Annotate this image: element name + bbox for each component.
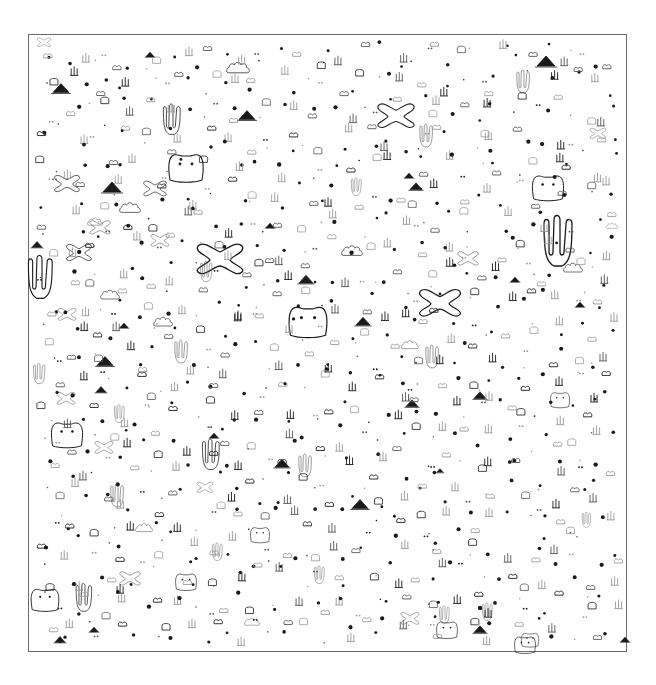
mountain-icon [436,469,445,473]
dot-glyph-icon [453,431,457,435]
tiny-glyph-icon [44,591,46,593]
dot-glyph-icon [192,363,196,367]
pair-glyph-icon [462,257,467,259]
bump-glyph-icon [76,183,84,187]
face-s-glyph-icon [412,423,420,430]
bump-glyph-icon [164,334,172,338]
face-s-glyph-icon [520,584,528,591]
tiny-glyph-icon [423,222,425,224]
tiny-glyph-icon [249,200,251,202]
dot-glyph-icon [335,164,338,167]
bump-glyph-icon [220,608,228,612]
tiny-glyph-icon [477,624,479,626]
tiny-glyph-icon [357,356,359,358]
dot-glyph-icon [314,281,317,284]
tiny-glyph-icon [54,357,56,359]
coral-icon [201,261,212,281]
sprout-glyph-icon [484,457,492,466]
sprout-glyph-icon [271,192,279,201]
bump-glyph-icon [433,125,441,129]
dot-glyph-icon [131,267,135,271]
sprout-glyph-icon [188,619,196,628]
pair-glyph-icon [49,121,54,123]
dot-glyph-icon [138,315,142,319]
face-s-glyph-icon [577,258,585,265]
dot-glyph-icon [380,616,384,620]
tiny-glyph-icon [267,631,269,633]
dot-glyph-icon [256,244,259,247]
dot-glyph-icon [522,297,526,301]
dot-glyph-icon [491,162,494,165]
coral-icon [34,363,45,383]
dot-glyph-icon [116,482,120,486]
bump-glyph-icon [614,559,622,563]
tiny-glyph-icon [262,478,264,480]
coral-icon [582,512,590,527]
pair-glyph-icon [523,608,528,610]
face-s-glyph-icon [197,326,205,333]
face-s-glyph-icon [86,280,94,287]
dot-glyph-icon [340,507,344,511]
tiny-glyph-icon [304,251,306,253]
coral-icon [351,178,361,196]
tiny-glyph-icon [358,160,360,162]
sprout-glyph-icon [71,478,79,487]
dot-glyph-icon [169,530,172,533]
xblob-icon [144,181,167,196]
dot-glyph-icon [435,202,438,205]
sprout-glyph-icon [225,228,233,237]
dot-glyph-icon [118,163,121,166]
pair-glyph-icon [162,177,167,179]
dot-glyph-icon [281,206,284,209]
sprout-glyph-icon [82,53,90,62]
dot-glyph-icon [186,380,189,383]
dot-glyph-icon [300,435,304,439]
tiny-glyph-icon [46,82,48,84]
face-s-glyph-icon [351,406,359,413]
sprout-glyph-icon [118,593,126,602]
dot-glyph-icon [389,198,393,202]
dot-glyph-icon [540,142,544,146]
dot-glyph-icon [517,377,520,380]
pair-glyph-icon [366,532,371,534]
dot-glyph-icon [233,418,236,421]
dot-glyph-icon [543,514,546,517]
pair-glyph-icon [319,485,324,487]
dot-glyph-icon [593,398,596,401]
sprout-glyph-icon [383,151,391,160]
bump-glyph-icon [49,628,57,632]
pair-glyph-icon [519,425,524,427]
tiny-glyph-icon [584,292,586,294]
sprout-glyph-icon [234,461,242,470]
bump-glyph-icon [527,289,535,293]
sprout-glyph-icon [228,531,236,540]
dot-glyph-icon [181,239,184,242]
bump-glyph-icon [209,451,217,455]
mountain-icon [237,111,257,121]
sprout-glyph-icon [484,608,492,617]
dot-glyph-icon [100,419,104,423]
dot-glyph-icon [601,515,605,519]
dot-glyph-icon [186,76,189,79]
dot-glyph-icon [546,109,550,113]
tiny-glyph-icon [380,599,382,601]
sprout-glyph-icon [451,482,459,491]
dot-glyph-icon [77,534,80,537]
dot-glyph-icon [119,299,122,302]
dot-glyph-icon [539,484,542,487]
dot-glyph-icon [327,49,330,52]
face-s-glyph-icon [588,182,596,189]
bump-glyph-icon [347,168,355,172]
sprout-glyph-icon [65,619,73,628]
face-s-glyph-icon [588,602,596,609]
bump-glyph-icon [221,441,229,445]
tiny-glyph-icon [304,387,306,389]
bump-glyph-icon [243,273,251,277]
tiny-glyph-icon [258,60,260,62]
face-icon [289,307,327,337]
bump-glyph-icon [335,576,343,580]
face-s-glyph-icon [517,409,525,416]
dot-glyph-icon [125,429,128,432]
cloud-icon [244,618,259,625]
tiny-glyph-icon [199,488,201,490]
